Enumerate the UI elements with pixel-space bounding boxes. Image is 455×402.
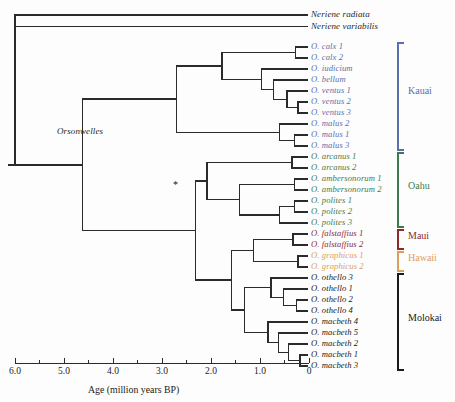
tip-label: O. falstaffius 2 (311, 240, 363, 249)
tip-label: O. othello 2 (311, 295, 353, 304)
tip-label: Neriene variabilis (311, 22, 378, 31)
genus-label: Orsonwelles (57, 127, 103, 136)
tree-branches (9, 15, 307, 366)
tip-label: O. ambersonorum 2 (311, 185, 382, 194)
tip-label: O. ventus 2 (311, 97, 351, 106)
tip-label: O. polites 2 (311, 207, 352, 216)
tip-label: O. othello 4 (311, 306, 353, 315)
tip-label: O. macbeth 1 (311, 350, 358, 359)
tip-label: O. bellum (311, 75, 346, 84)
tip-label: O. malus 3 (311, 141, 349, 150)
figure-container: Neriene radiataNeriene variabilisO. calx… (0, 0, 455, 402)
island-label-oahu: Oahu (408, 181, 430, 191)
axis-tick-0: 0 (289, 366, 329, 376)
island-label-molokai: Molokai (408, 313, 442, 323)
tip-label: O. ventus 1 (311, 86, 351, 95)
tip-label: O. othello 3 (311, 273, 353, 282)
tip-label: O. othello 1 (311, 284, 353, 293)
tip-label: O. polites 3 (311, 218, 352, 227)
tip-label: O. arcanus 1 (311, 152, 357, 161)
island-label-kauai: Kauai (408, 86, 432, 96)
tip-label: O. polites 1 (311, 196, 352, 205)
tip-label: O. ambersonorum 1 (311, 174, 382, 183)
phylogeny-svg (0, 0, 455, 402)
tip-label: O. graphicus 2 (311, 262, 364, 271)
tip-label: O. arcanus 2 (311, 163, 357, 172)
axis-tick-4-0: 4.0 (93, 366, 133, 376)
tip-label: O. falstaffius 1 (311, 229, 363, 238)
island-label-maui: Maui (408, 231, 429, 241)
axis-tick-2-0: 2.0 (191, 366, 231, 376)
tip-label: O. malus 1 (311, 130, 349, 139)
tip-label: O. macbeth 5 (311, 328, 358, 337)
tip-label: O. graphicus 1 (311, 251, 364, 260)
island-brackets (398, 43, 404, 370)
tip-label: O. ventus 3 (311, 108, 351, 117)
axis-title: Age (million years BP) (88, 384, 179, 395)
tip-label: O. macbeth 2 (311, 339, 358, 348)
tip-label: O. iudicium (311, 64, 353, 73)
island-label-hawaii: Hawaii (408, 253, 437, 263)
tip-label: O. malus 2 (311, 119, 349, 128)
tip-label: O. calx 1 (311, 42, 343, 51)
axis-tick-3-0: 3.0 (142, 366, 182, 376)
tip-label: O. calx 2 (311, 53, 343, 62)
support-asterisk: * (173, 180, 178, 190)
axis-tick-6-0: 6.0 (0, 366, 35, 376)
tip-label: O. macbeth 4 (311, 317, 358, 326)
axis-tick-1-0: 1.0 (240, 366, 280, 376)
tip-label: Neriene radiata (311, 10, 370, 19)
time-axis (15, 358, 309, 363)
axis-tick-5-0: 5.0 (44, 366, 84, 376)
